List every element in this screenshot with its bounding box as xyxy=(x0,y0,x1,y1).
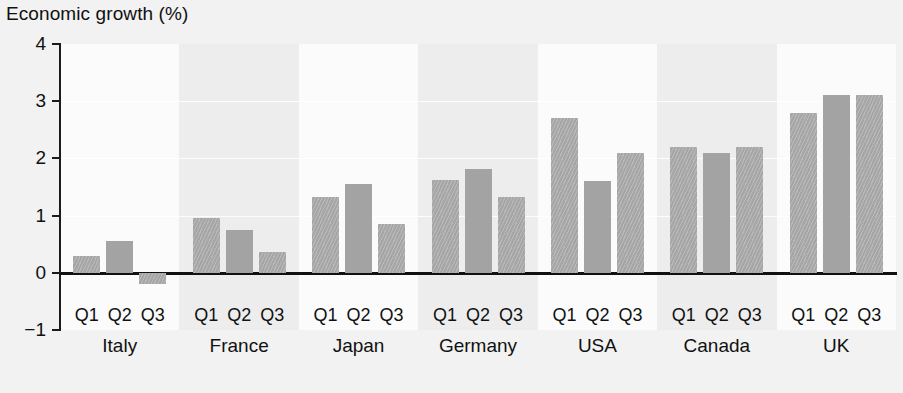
y-axis-line xyxy=(59,44,61,331)
bar-uk-q1 xyxy=(790,113,817,273)
q-label-japan-q2: Q2 xyxy=(341,305,376,326)
q-label-france-q1: Q1 xyxy=(189,305,224,326)
y-tick--1 xyxy=(52,329,61,331)
country-label-usa: USA xyxy=(538,335,657,357)
country-label-uk: UK xyxy=(777,335,896,357)
gridline-2 xyxy=(60,158,896,159)
q-label-germany-q2: Q2 xyxy=(461,305,496,326)
q-label-usa-q3: Q3 xyxy=(613,305,648,326)
bar-canada-q3 xyxy=(736,147,763,273)
bar-canada-q1 xyxy=(670,147,697,273)
q-label-canada-q3: Q3 xyxy=(732,305,767,326)
q-label-france-q2: Q2 xyxy=(222,305,257,326)
q-label-france-q3: Q3 xyxy=(255,305,290,326)
bar-germany-q1 xyxy=(432,180,459,273)
bar-italy-q2 xyxy=(106,241,133,272)
y-tick-4 xyxy=(52,43,61,45)
gridline-3 xyxy=(60,101,896,102)
q-label-germany-q3: Q3 xyxy=(494,305,529,326)
q-label-uk-q1: Q1 xyxy=(786,305,821,326)
y-tick-label-2: 2 xyxy=(0,147,46,169)
country-label-japan: Japan xyxy=(299,335,418,357)
bar-japan-q3 xyxy=(378,224,405,273)
q-label-canada-q1: Q1 xyxy=(666,305,701,326)
q-label-uk-q3: Q3 xyxy=(852,305,887,326)
q-label-italy-q1: Q1 xyxy=(69,305,104,326)
q-label-uk-q2: Q2 xyxy=(819,305,854,326)
bar-uk-q2 xyxy=(823,95,850,272)
q-label-usa-q1: Q1 xyxy=(547,305,582,326)
y-tick-label-0: 0 xyxy=(0,262,46,284)
bar-japan-q2 xyxy=(345,184,372,273)
y-tick-1 xyxy=(52,215,61,217)
bar-italy-q3 xyxy=(139,273,166,284)
y-tick-3 xyxy=(52,100,61,102)
y-tick-2 xyxy=(52,157,61,159)
bar-usa-q1 xyxy=(551,118,578,272)
bar-uk-q3 xyxy=(856,95,883,272)
bar-canada-q2 xyxy=(703,153,730,273)
bar-germany-q2 xyxy=(465,169,492,273)
bar-france-q1 xyxy=(193,218,220,272)
plot-band-italy xyxy=(60,44,179,330)
bar-usa-q3 xyxy=(617,153,644,273)
country-label-france: France xyxy=(179,335,298,357)
q-label-germany-q1: Q1 xyxy=(428,305,463,326)
plot-band-france xyxy=(179,44,298,330)
bar-germany-q3 xyxy=(498,197,525,273)
country-label-germany: Germany xyxy=(418,335,537,357)
bar-france-q2 xyxy=(226,230,253,273)
y-tick-label-4: 4 xyxy=(0,33,46,55)
economic-growth-bar-chart: Economic growth (%) 43210−1 Q1Q2Q3ItalyQ… xyxy=(0,0,903,393)
q-label-japan-q3: Q3 xyxy=(374,305,409,326)
bar-france-q3 xyxy=(259,252,286,273)
y-tick-0 xyxy=(52,272,61,274)
q-label-canada-q2: Q2 xyxy=(699,305,734,326)
q-label-italy-q2: Q2 xyxy=(102,305,137,326)
q-label-japan-q1: Q1 xyxy=(308,305,343,326)
bar-italy-q1 xyxy=(73,256,100,273)
country-label-italy: Italy xyxy=(60,335,179,357)
bar-usa-q2 xyxy=(584,181,611,273)
country-label-canada: Canada xyxy=(657,335,776,357)
bar-japan-q1 xyxy=(312,197,339,273)
q-label-italy-q3: Q3 xyxy=(135,305,170,326)
y-tick-label--1: −1 xyxy=(0,319,46,341)
y-tick-label-3: 3 xyxy=(0,90,46,112)
y-tick-label-1: 1 xyxy=(0,205,46,227)
q-label-usa-q2: Q2 xyxy=(580,305,615,326)
chart-title: Economic growth (%) xyxy=(6,3,188,25)
